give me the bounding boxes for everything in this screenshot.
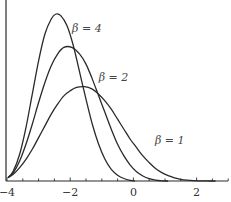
curve-label-1: β = 2 [98, 71, 129, 84]
curve-series-1 [8, 47, 168, 181]
axes: −4−202 [0, 0, 228, 199]
chart: −4−202 β = 4β = 2β = 1 [0, 0, 231, 202]
curve-label-2: β = 1 [154, 134, 185, 147]
x-tick-label: 2 [193, 186, 200, 199]
x-tick-label: −4 [0, 186, 15, 199]
curve-label-0: β = 4 [71, 22, 102, 35]
curves [8, 14, 216, 181]
x-tick-label: 0 [130, 186, 137, 199]
curve-labels: β = 4β = 2β = 1 [71, 22, 184, 147]
x-tick-labels: −4−202 [0, 186, 200, 199]
curve-series-0 [8, 14, 135, 181]
x-tick-label: −2 [62, 186, 78, 199]
